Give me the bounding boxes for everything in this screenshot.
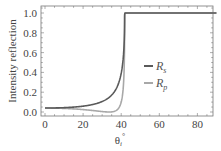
- y-tick-label: 0.6: [23, 47, 37, 59]
- plot-frame: [41, 6, 213, 116]
- legend-label-rs: Rs: [155, 59, 166, 75]
- axis-ticks: [41, 6, 213, 116]
- x-tick-label: 40: [116, 118, 128, 130]
- x-tick-label: 80: [192, 118, 204, 130]
- y-tick-label: 0.0: [23, 106, 37, 118]
- y-axis-label: Intensity reflection: [6, 19, 18, 103]
- legend: Rs Rp: [144, 59, 167, 92]
- x-axis-label: θi°: [115, 132, 125, 148]
- x-tick-label: 60: [154, 118, 166, 130]
- y-tick-label: 0.8: [23, 27, 37, 39]
- plot-border: [41, 6, 213, 116]
- y-tick-label: 1.0: [23, 7, 37, 19]
- y-tick-label: 0.4: [23, 66, 37, 78]
- x-tick-label: 0: [42, 118, 48, 130]
- legend-label-rp: Rp: [155, 76, 167, 92]
- reflection-chart: 0204060800.00.20.40.60.81.0 Rs Rp Intens…: [0, 0, 221, 151]
- data-series: [45, 13, 216, 112]
- y-tick-label: 0.2: [23, 86, 37, 98]
- series-line-rp: [45, 13, 216, 112]
- series-line-rs: [45, 13, 216, 108]
- x-tick-label: 20: [78, 118, 90, 130]
